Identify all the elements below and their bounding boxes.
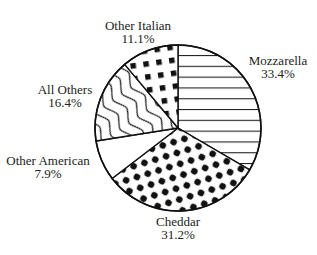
label-pct: 11.1% — [98, 32, 178, 45]
label-cheddar: Cheddar 31.2% — [140, 215, 216, 241]
label-all-others: All Others 16.4% — [30, 83, 100, 109]
label-pct: 33.4% — [238, 67, 317, 80]
pie-slices — [95, 45, 261, 211]
label-mozzarella: Mozzarella 33.4% — [238, 54, 317, 80]
label-pct: 7.9% — [2, 167, 94, 180]
label-pct: 16.4% — [30, 96, 100, 109]
label-other-american: Other American 7.9% — [2, 154, 94, 180]
label-other-italian: Other Italian 11.1% — [98, 19, 178, 45]
label-pct: 31.2% — [140, 228, 216, 241]
